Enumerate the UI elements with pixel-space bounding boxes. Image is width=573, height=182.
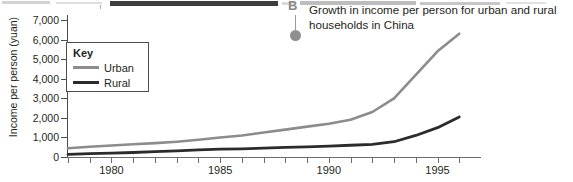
series-line-rural: [68, 117, 459, 155]
legend-swatch-urban: [73, 66, 99, 69]
legend-swatch-rural: [73, 81, 99, 84]
chart-plot-area: Income per person (yuan) 7,0006,0005,000…: [0, 9, 573, 182]
legend-label-rural: Rural: [104, 77, 130, 89]
scan-smudge: [56, 2, 102, 4]
legend-item-rural: Rural: [73, 75, 148, 90]
chart-series-layer: [0, 9, 573, 182]
scan-smudge: [110, 1, 278, 6]
chart-legend: Key Urban Rural: [66, 42, 149, 92]
legend-item-urban: Urban: [73, 60, 148, 75]
legend-title: Key: [73, 47, 148, 60]
legend-label-urban: Urban: [104, 62, 134, 74]
